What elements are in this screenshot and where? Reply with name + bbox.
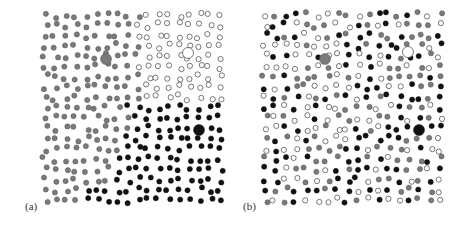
white-particle — [260, 43, 265, 48]
black-particle — [284, 14, 289, 19]
gray-particle — [440, 11, 445, 16]
white-particle — [265, 24, 270, 29]
gray-particle — [106, 148, 111, 153]
black-particle — [146, 108, 151, 113]
black-particle — [153, 196, 158, 201]
white-particle — [292, 118, 297, 123]
gray-particle — [44, 165, 49, 170]
black-particle — [148, 175, 153, 180]
black-particle — [133, 165, 138, 170]
gray-particle — [71, 114, 76, 119]
black-particle — [175, 176, 180, 181]
gray-particle — [322, 186, 327, 191]
white-particle — [305, 113, 310, 118]
gray-particle — [97, 146, 102, 151]
black-particle — [399, 34, 404, 39]
gray-particle — [54, 103, 59, 108]
white-particle — [396, 22, 401, 27]
gray-particle — [61, 77, 66, 82]
panel-a-label: (a) — [25, 200, 37, 212]
gray-particle — [282, 200, 287, 205]
large-white-particle — [183, 48, 194, 59]
gray-particle — [74, 105, 79, 110]
black-particle — [205, 159, 210, 164]
gray-particle — [112, 34, 117, 39]
gray-particle — [72, 197, 77, 202]
gray-particle — [41, 87, 46, 92]
gray-particle — [65, 136, 70, 141]
white-particle — [343, 137, 348, 142]
gray-particle — [416, 23, 421, 28]
black-particle — [126, 166, 131, 171]
white-particle — [146, 43, 151, 48]
gray-particle — [41, 175, 46, 180]
gray-particle — [52, 160, 57, 165]
gray-particle — [72, 93, 77, 98]
gray-particle — [346, 75, 351, 80]
white-particle — [147, 55, 152, 60]
white-particle — [373, 167, 378, 172]
white-particle — [164, 53, 169, 58]
gray-particle — [92, 56, 97, 61]
black-particle — [137, 185, 142, 190]
white-particle — [218, 56, 223, 61]
gray-particle — [376, 177, 381, 182]
gray-particle — [84, 36, 89, 41]
gray-particle — [40, 154, 45, 159]
white-particle — [186, 12, 191, 17]
gray-particle — [92, 82, 97, 87]
black-particle — [261, 179, 266, 184]
gray-particle — [125, 63, 130, 68]
white-particle — [264, 65, 269, 70]
black-particle — [158, 166, 163, 171]
black-particle — [215, 188, 220, 193]
black-particle — [137, 197, 142, 202]
gray-particle — [347, 118, 352, 123]
gray-particle — [337, 10, 342, 15]
gray-particle — [407, 74, 412, 79]
white-particle — [436, 190, 441, 195]
black-particle — [138, 105, 143, 110]
white-particle — [323, 139, 328, 144]
gray-particle — [136, 87, 141, 92]
black-particle — [384, 92, 389, 97]
gray-particle — [107, 34, 112, 39]
black-particle — [208, 104, 213, 109]
white-particle — [334, 133, 339, 138]
black-particle — [218, 198, 223, 203]
black-particle — [199, 143, 204, 148]
black-particle — [207, 115, 212, 120]
white-particle — [334, 72, 339, 77]
gray-particle — [419, 159, 424, 164]
gray-particle — [94, 156, 99, 161]
gray-particle — [398, 56, 403, 61]
black-particle — [410, 97, 415, 102]
white-particle — [366, 195, 371, 200]
gray-particle — [65, 168, 70, 173]
black-particle — [343, 62, 348, 67]
gray-particle — [73, 159, 78, 164]
black-particle — [274, 149, 279, 154]
white-particle — [168, 95, 173, 100]
gray-particle — [81, 114, 86, 119]
gray-particle — [92, 33, 97, 38]
gray-particle — [70, 176, 75, 181]
gray-particle — [105, 20, 110, 25]
white-particle — [146, 63, 151, 68]
white-particle — [314, 179, 319, 184]
black-particle — [125, 102, 130, 107]
gray-particle — [45, 123, 50, 128]
white-particle — [175, 92, 180, 97]
white-particle — [157, 46, 162, 51]
black-particle — [184, 114, 189, 119]
white-particle — [358, 14, 363, 19]
white-particle — [196, 44, 201, 49]
gray-particle — [394, 14, 399, 19]
black-particle — [188, 197, 193, 202]
white-particle — [405, 148, 410, 153]
white-particle — [356, 189, 361, 194]
black-particle — [263, 188, 268, 193]
black-particle — [117, 190, 122, 195]
black-particle — [205, 176, 210, 181]
gray-particle — [294, 166, 299, 171]
